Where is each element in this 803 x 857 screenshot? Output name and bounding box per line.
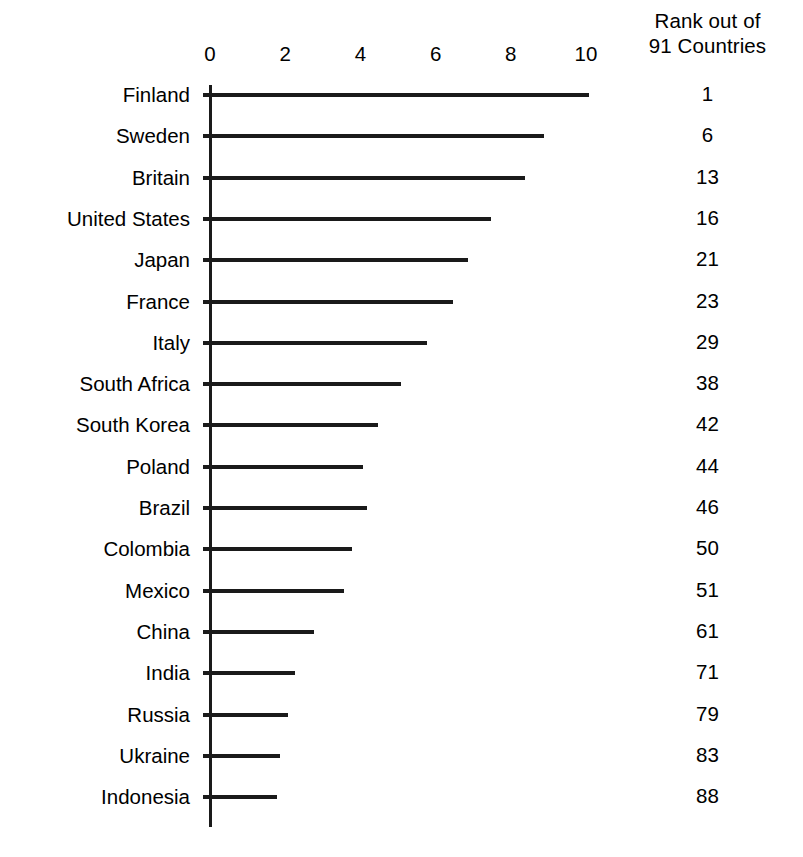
category-label-south-korea: South Korea: [76, 412, 190, 438]
category-label-south-africa: South Africa: [79, 371, 190, 397]
rank-value-south-africa: 38: [620, 370, 795, 396]
category-label-japan: Japan: [134, 247, 190, 273]
rank-value-united-states: 16: [620, 205, 795, 231]
bar-ukraine: [209, 754, 280, 758]
rank-value-france: 23: [620, 288, 795, 314]
bar-south-africa: [209, 382, 401, 386]
category-label-india: India: [146, 660, 190, 686]
bar-brazil: [209, 506, 367, 510]
x-tick-label-10: 10: [566, 42, 606, 66]
rank-value-colombia: 50: [620, 535, 795, 561]
category-label-italy: Italy: [152, 330, 190, 356]
rank-value-japan: 21: [620, 246, 795, 272]
x-tick-label-8: 8: [491, 42, 531, 66]
category-label-colombia: Colombia: [103, 536, 190, 562]
bar-united-states: [209, 217, 491, 221]
category-label-united-states: United States: [67, 206, 190, 232]
rank-value-britain: 13: [620, 164, 795, 190]
rank-value-indonesia: 88: [620, 783, 795, 809]
bar-russia: [209, 713, 288, 717]
bar-poland: [209, 465, 363, 469]
x-tick-label-0: 0: [190, 42, 230, 66]
bar-indonesia: [209, 795, 277, 799]
bar-italy: [209, 341, 427, 345]
bar-britain: [209, 176, 525, 180]
bar-japan: [209, 258, 468, 262]
bar-colombia: [209, 547, 352, 551]
category-label-ukraine: Ukraine: [119, 743, 190, 769]
bar-china: [209, 630, 314, 634]
bar-france: [209, 300, 453, 304]
category-label-finland: Finland: [123, 82, 190, 108]
category-label-brazil: Brazil: [139, 495, 190, 521]
category-label-mexico: Mexico: [125, 578, 190, 604]
x-tick-label-4: 4: [340, 42, 380, 66]
rank-value-poland: 44: [620, 453, 795, 479]
bar-finland: [209, 93, 589, 97]
category-label-china: China: [136, 619, 190, 645]
horizontal-bar-chart: Rank out of 91 Countries 0246810 Finland…: [0, 0, 803, 857]
rank-header-line-2: 91 Countries: [620, 33, 795, 58]
rank-column-header: Rank out of 91 Countries: [620, 8, 795, 58]
rank-value-ukraine: 83: [620, 742, 795, 768]
category-label-russia: Russia: [127, 702, 190, 728]
bar-india: [209, 671, 295, 675]
category-label-sweden: Sweden: [116, 123, 190, 149]
category-label-france: France: [126, 289, 190, 315]
rank-value-india: 71: [620, 659, 795, 685]
rank-value-finland: 1: [620, 81, 795, 107]
rank-value-russia: 79: [620, 701, 795, 727]
category-label-indonesia: Indonesia: [101, 784, 190, 810]
rank-header-line-1: Rank out of: [620, 8, 795, 33]
rank-value-south-korea: 42: [620, 411, 795, 437]
rank-value-china: 61: [620, 618, 795, 644]
rank-value-mexico: 51: [620, 577, 795, 603]
category-label-britain: Britain: [132, 165, 190, 191]
x-tick-label-2: 2: [265, 42, 305, 66]
bar-south-korea: [209, 423, 378, 427]
rank-value-italy: 29: [620, 329, 795, 355]
x-tick-label-6: 6: [416, 42, 456, 66]
rank-value-sweden: 6: [620, 122, 795, 148]
rank-value-brazil: 46: [620, 494, 795, 520]
category-label-poland: Poland: [126, 454, 190, 480]
bar-mexico: [209, 589, 344, 593]
bar-sweden: [209, 134, 544, 138]
